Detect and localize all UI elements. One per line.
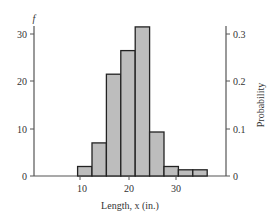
- histogram-bar: [78, 167, 92, 177]
- x-axis-label: Length, x (in.): [101, 200, 159, 212]
- histogram-bar: [178, 170, 192, 176]
- x-tick-30: 30: [171, 183, 181, 194]
- y-right-tick-0: 0: [233, 171, 238, 182]
- histogram-bar: [135, 27, 149, 176]
- histogram-bar: [121, 51, 135, 176]
- y-left-axis-label: f: [33, 13, 37, 24]
- y-right-tick-0-2: 0.2: [233, 76, 246, 87]
- y-left-tick-10: 10: [17, 124, 27, 135]
- y-left-ticks: 0 10 20 30: [17, 29, 34, 182]
- y-left-tick-30: 30: [17, 29, 27, 40]
- y-right-tick-0-3: 0.3: [233, 29, 246, 40]
- x-ticks: 10 20 30: [77, 176, 181, 194]
- histogram-bar: [193, 170, 207, 176]
- histogram-bar: [106, 74, 120, 176]
- histogram-bar: [164, 167, 178, 177]
- y-right-ticks: 0 0.1 0.2 0.3: [226, 29, 246, 182]
- histogram-bars: [78, 27, 208, 176]
- y-right-tick-0-1: 0.1: [233, 124, 246, 135]
- y-left-tick-0: 0: [22, 171, 27, 182]
- histogram-bar: [150, 132, 164, 176]
- y-right-axis-label: Probability: [255, 83, 266, 127]
- histogram-chart: f 0 10 20 30 0 0.1 0.2 0.3 Probability 1…: [0, 0, 280, 218]
- x-tick-10: 10: [77, 183, 87, 194]
- x-tick-20: 20: [124, 183, 134, 194]
- histogram-bar: [92, 143, 106, 176]
- y-left-tick-20: 20: [17, 76, 27, 87]
